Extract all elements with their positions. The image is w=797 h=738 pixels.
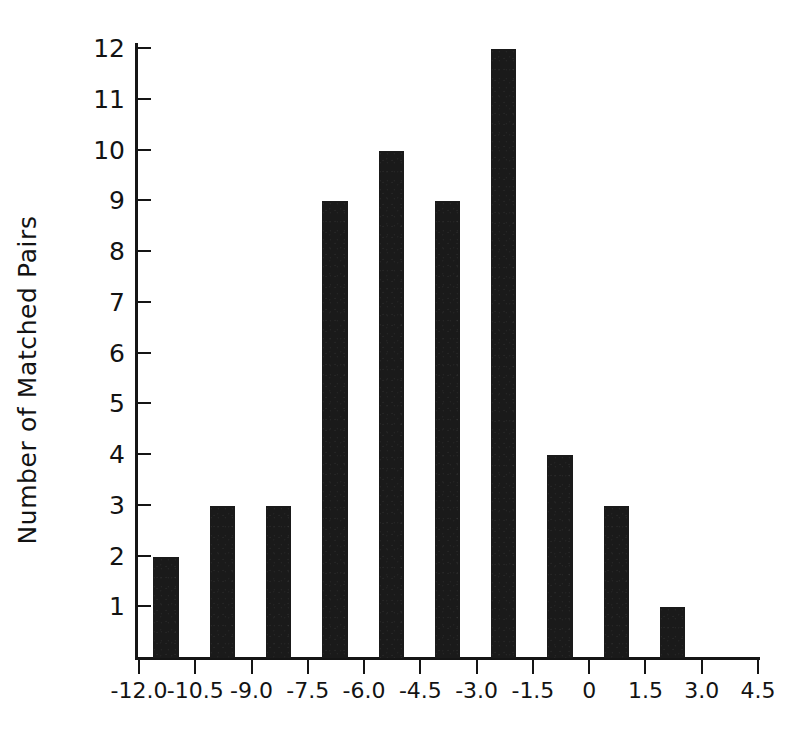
bar: [604, 506, 629, 658]
x-tick: 4.5: [757, 660, 759, 674]
x-tick: -9.0: [251, 660, 253, 674]
y-tick: 5: [138, 402, 151, 404]
bar: [547, 455, 572, 658]
x-tick-label: 1.5: [628, 680, 663, 702]
x-tick: 0: [588, 660, 590, 674]
x-tick-label: -3.0: [455, 680, 498, 702]
x-tick-label: 4.5: [741, 680, 776, 702]
x-tick-label: -6.0: [343, 680, 386, 702]
x-tick-label: -9.0: [230, 680, 273, 702]
x-tick: 1.5: [644, 660, 646, 674]
x-tick: -3.0: [476, 660, 478, 674]
y-tick-label: 8: [109, 239, 125, 264]
x-tick-label: 3.0: [684, 680, 719, 702]
bar: [153, 557, 178, 659]
x-tick-label: -10.5: [167, 680, 224, 702]
y-tick: 6: [138, 352, 151, 354]
plot-area: 123456789101112 -12.0-10.5-9.0-7.5-6.0-4…: [135, 43, 760, 660]
y-tick-label: 9: [109, 188, 125, 213]
y-tick: 8: [138, 250, 151, 252]
y-tick: 1: [138, 605, 151, 607]
y-tick-label: 3: [109, 492, 125, 517]
y-tick-label: 11: [93, 86, 125, 111]
y-tick-label: 7: [109, 289, 125, 314]
x-tick: -6.0: [363, 660, 365, 674]
x-tick: -7.5: [307, 660, 309, 674]
bar: [491, 49, 516, 658]
y-axis-title: Number of Matched Pairs: [4, 100, 50, 660]
y-tick-label: 1: [109, 594, 125, 619]
x-tick: -10.5: [194, 660, 196, 674]
y-tick-label: 6: [109, 340, 125, 365]
y-axis-title-label: Number of Matched Pairs: [13, 215, 42, 544]
x-tick: -1.5: [532, 660, 534, 674]
y-tick: 10: [138, 149, 151, 151]
x-tick: 3.0: [701, 660, 703, 674]
y-tick-label: 12: [93, 36, 125, 61]
y-tick-label: 4: [109, 442, 125, 467]
histogram-chart: Number of Matched Pairs 123456789101112 …: [0, 0, 797, 738]
x-tick: -12.0: [138, 660, 140, 674]
bar: [322, 201, 347, 658]
y-tick-label: 5: [109, 391, 125, 416]
bar: [435, 201, 460, 658]
x-tick-label: -4.5: [399, 680, 442, 702]
y-tick: 7: [138, 301, 151, 303]
bar: [379, 151, 404, 659]
bar: [210, 506, 235, 658]
y-tick: 11: [138, 98, 151, 100]
x-tick-label: -1.5: [511, 680, 554, 702]
x-tick-label: 0: [582, 680, 596, 702]
y-tick-label: 10: [93, 137, 125, 162]
x-tick-label: -7.5: [286, 680, 329, 702]
bar: [660, 607, 685, 658]
y-tick: 3: [138, 504, 151, 506]
y-tick: 4: [138, 453, 151, 455]
x-tick: -4.5: [419, 660, 421, 674]
bar: [266, 506, 291, 658]
x-tick-label: -12.0: [111, 680, 168, 702]
y-tick: 9: [138, 199, 151, 201]
y-tick: 12: [138, 47, 151, 49]
y-tick-label: 2: [109, 543, 125, 568]
y-tick: 2: [138, 555, 151, 557]
